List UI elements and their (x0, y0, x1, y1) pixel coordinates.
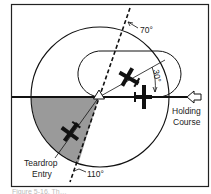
airplane-outbound-icon (114, 64, 143, 92)
airplane-on-course-icon (134, 85, 152, 109)
inbound-arrow (187, 91, 201, 103)
angle-70-label: 70° (140, 25, 153, 35)
holding-course-label-line1: Holding (172, 106, 201, 116)
angle-110-leader (74, 169, 86, 172)
holding-pattern-figure: 70° 30° 110° Holding Course Teardrop Ent… (0, 0, 211, 194)
teardrop-entry-label-line2: Entry (32, 169, 53, 179)
angle-110-label: 110° (87, 169, 104, 179)
figure-caption: Figure 5-16. Th… (12, 188, 67, 194)
teardrop-entry-label-line1: Teardrop (24, 158, 58, 168)
angle-30-label: 30° (151, 69, 163, 83)
holding-course-label-line2: Course (173, 117, 201, 127)
